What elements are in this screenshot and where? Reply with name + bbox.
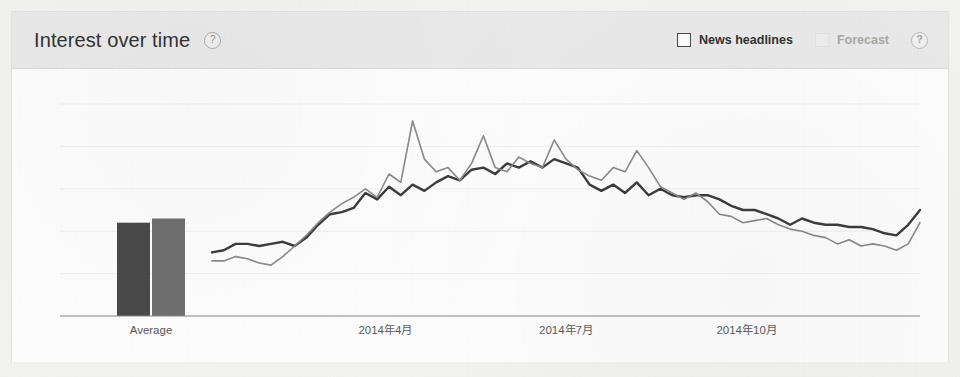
help-circle-icon-forecast[interactable]: ? <box>911 32 928 49</box>
chart-line-series[interactable] <box>212 159 920 252</box>
average-axis-label: Average <box>130 324 173 336</box>
interest-over-time-panel: Interest over time ? News headlines Fore… <box>12 12 948 361</box>
chart-area: Average2014年4月2014年7月2014年10月 <box>12 69 948 362</box>
average-bars-group <box>117 219 185 317</box>
news-headlines-label: News headlines <box>699 33 793 47</box>
x-axis-tick-labels: Average2014年4月2014年7月2014年10月 <box>130 323 777 336</box>
page-title: Interest over time <box>34 29 190 52</box>
news-headlines-toggle[interactable]: News headlines <box>677 33 793 47</box>
chart-gridlines <box>60 104 920 274</box>
interest-over-time-chart: Average2014年4月2014年7月2014年10月 <box>12 69 948 362</box>
x-axis-tick-label: 2014年7月 <box>539 323 593 336</box>
x-axis-tick-label: 2014年10月 <box>716 323 776 336</box>
checkbox-icon-forecast[interactable] <box>815 33 829 47</box>
average-bar[interactable] <box>152 219 185 317</box>
forecast-label: Forecast <box>837 33 889 47</box>
chart-line-series[interactable] <box>212 121 920 265</box>
checkbox-icon-news-headlines[interactable] <box>677 33 691 47</box>
panel-header: Interest over time ? News headlines Fore… <box>12 12 948 69</box>
header-controls: News headlines Forecast ? <box>677 32 928 49</box>
forecast-toggle[interactable]: Forecast ? <box>815 32 928 49</box>
average-bar[interactable] <box>117 223 150 316</box>
chart-series-group <box>212 121 920 265</box>
help-circle-icon-title[interactable]: ? <box>204 32 221 49</box>
x-axis-tick-label: 2014年4月 <box>358 323 412 336</box>
